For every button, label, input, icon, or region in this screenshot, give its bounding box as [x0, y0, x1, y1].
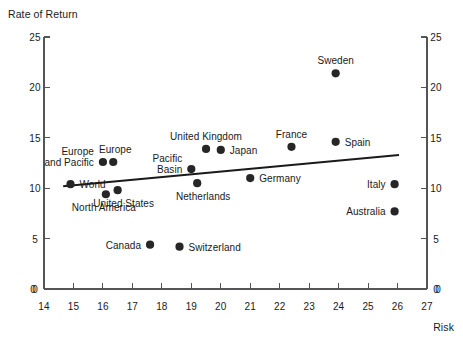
- data-point-label: Europe: [99, 143, 132, 154]
- x-tick-label: 20: [215, 301, 226, 312]
- data-point-label: Spain: [345, 136, 371, 147]
- y-tick-label-left: 20: [29, 82, 40, 93]
- data-point: [175, 243, 183, 251]
- data-point: [217, 146, 225, 154]
- data-point-label: PacificBasin: [152, 153, 182, 175]
- data-point-label: Italy: [367, 179, 386, 190]
- data-point: [390, 180, 398, 188]
- data-point: [193, 179, 201, 187]
- data-point-label: United Kingdom: [170, 130, 242, 141]
- y-tick-label-right: 20: [430, 82, 441, 93]
- data-point-label: Sweden: [317, 55, 353, 66]
- data-point: [202, 145, 210, 153]
- x-tick-label: 23: [303, 301, 314, 312]
- data-point-label: Europeand Pacific: [44, 146, 93, 168]
- data-point-label: World: [80, 179, 106, 190]
- x-tick-label: 14: [38, 301, 49, 312]
- y-tick-label-left: 5: [32, 233, 38, 244]
- data-point: [332, 138, 340, 146]
- x-tick-label: 17: [127, 301, 138, 312]
- data-point-label: Germany: [259, 173, 300, 184]
- x-axis-zero-label-left: 0: [30, 284, 36, 295]
- data-point: [109, 158, 117, 166]
- x-tick-label: 18: [156, 301, 167, 312]
- x-tick-label: 22: [274, 301, 285, 312]
- data-point: [66, 180, 74, 188]
- x-tick-label: 21: [245, 301, 256, 312]
- data-point: [187, 165, 195, 173]
- data-point: [246, 174, 254, 182]
- y-tick-label-left: 25: [29, 32, 40, 43]
- x-tick-label: 15: [68, 301, 79, 312]
- x-tick-label: 19: [186, 301, 197, 312]
- data-point-label: United States: [93, 198, 154, 209]
- y-tick-label-right: 5: [433, 233, 439, 244]
- y-tick-label-left: 10: [29, 183, 40, 194]
- data-point-label: Australia: [346, 206, 385, 217]
- data-point-label: Netherlands: [176, 191, 230, 202]
- data-point: [146, 241, 154, 249]
- data-point-label: Switzerland: [189, 241, 241, 252]
- chart-canvas: [0, 0, 463, 339]
- data-point: [390, 207, 398, 215]
- data-point-label: Japan: [230, 144, 258, 155]
- y-tick-label-right: 10: [430, 183, 441, 194]
- scatter-chart: Rate of Return Risk 00551010151520202525…: [0, 0, 463, 339]
- x-tick-label: 16: [97, 301, 108, 312]
- y-tick-label-right: 15: [430, 132, 441, 143]
- x-tick-label: 24: [333, 301, 344, 312]
- data-point: [114, 186, 122, 194]
- x-axis-zero-label-right: 0: [435, 284, 441, 295]
- x-tick-label: 25: [362, 301, 373, 312]
- y-tick-label-right: 25: [430, 32, 441, 43]
- data-point-label: France: [276, 128, 307, 139]
- data-point: [332, 69, 340, 77]
- data-point: [287, 143, 295, 151]
- y-tick-label-left: 15: [29, 132, 40, 143]
- data-point: [99, 158, 107, 166]
- x-tick-label: 26: [392, 301, 403, 312]
- data-point-label: Canada: [106, 239, 141, 250]
- x-tick-label: 27: [421, 301, 432, 312]
